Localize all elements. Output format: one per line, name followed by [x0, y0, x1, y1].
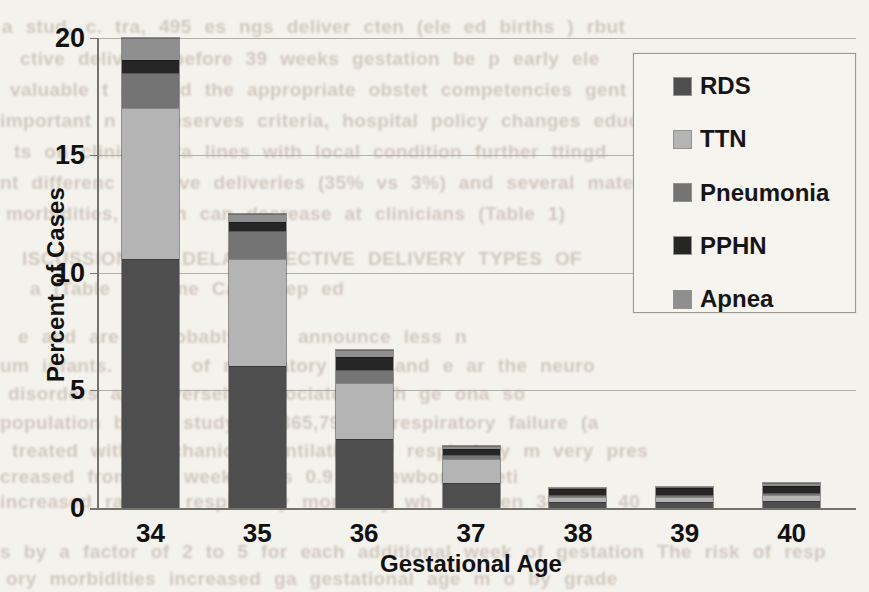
y-tick-label: 20: [39, 25, 85, 52]
y-tick-label: 0: [39, 495, 85, 522]
bar-segment-rds: [122, 259, 179, 508]
bar-segment-ttn: [122, 108, 179, 259]
legend-swatch-ttn: [674, 131, 691, 148]
legend-swatch-rds: [674, 78, 691, 95]
bar-segment-apnea: [229, 214, 286, 222]
legend-label: PPHN: [700, 232, 767, 260]
bar-segment-apnea: [763, 483, 820, 485]
x-tick-label-39: 39: [650, 518, 720, 549]
bar-segment-pphn: [549, 489, 606, 495]
y-tick-mark: [90, 390, 97, 391]
x-tick-label-40: 40: [757, 518, 827, 549]
legend-item-pneumonia: Pneumonia: [674, 179, 829, 207]
bar-37: [443, 446, 500, 508]
bar-36: [336, 350, 393, 508]
bar-segment-pneumonia: [229, 231, 286, 258]
bar-segment-pphn: [336, 357, 393, 370]
bar-segment-pneumonia: [443, 455, 500, 459]
bar-segment-pphn: [763, 486, 820, 493]
y-tick-mark: [90, 273, 97, 274]
bar-segment-pneumonia: [656, 495, 713, 497]
bar-segment-apnea: [336, 350, 393, 357]
bar-segment-pphn: [122, 60, 179, 73]
bar-39: [656, 487, 713, 508]
bar-segment-apnea: [549, 488, 606, 489]
bar-segment-ttn: [229, 259, 286, 366]
y-tick-mark: [90, 38, 97, 39]
bar-34: [122, 38, 179, 509]
bar-segment-apnea: [122, 38, 179, 60]
bar-segment-pphn: [229, 222, 286, 231]
bar-segment-rds: [336, 439, 393, 508]
x-tick-label-37: 37: [436, 518, 506, 549]
legend-label: TTN: [700, 125, 747, 153]
y-tick-mark: [90, 155, 97, 156]
bar-35: [229, 214, 286, 508]
gridline-5: [97, 390, 856, 391]
bar-segment-rds: [229, 366, 286, 508]
legend-item-ttn: TTN: [674, 125, 747, 153]
bar-segment-ttn: [443, 459, 500, 484]
y-axis-title: Percent of Cases: [42, 187, 70, 382]
bar-segment-ttn: [336, 383, 393, 438]
legend-label: Apnea: [700, 285, 773, 313]
bar-segment-pneumonia: [336, 370, 393, 383]
bar-segment-rds: [443, 483, 500, 508]
bar-segment-rds: [763, 501, 820, 508]
x-axis-title: Gestational Age: [321, 550, 621, 578]
legend-swatch-pneumonia: [674, 184, 691, 201]
legend-item-pphn: PPHN: [674, 232, 767, 260]
bar-segment-ttn: [656, 497, 713, 502]
x-tick-label-38: 38: [543, 518, 613, 549]
bar-segment-pneumonia: [122, 73, 179, 108]
legend-label: Pneumonia: [700, 179, 829, 207]
x-tick-label-35: 35: [222, 518, 292, 549]
legend-swatch-pphn: [674, 237, 691, 254]
y-axis-line: [97, 38, 99, 509]
stacked-bar-chart: 05101520 34353637383940 Percent of Cases…: [0, 0, 869, 592]
bar-segment-pneumonia: [549, 495, 606, 497]
bar-segment-pneumonia: [763, 493, 820, 495]
legend-item-rds: RDS: [674, 72, 751, 100]
chart-legend: RDSTTNPneumoniaPPHNApnea: [633, 53, 856, 313]
bar-segment-pphn: [443, 449, 500, 455]
legend-swatch-apnea: [674, 291, 691, 308]
bar-segment-apnea: [656, 487, 713, 488]
x-tick-label-36: 36: [329, 518, 399, 549]
legend-label: RDS: [700, 72, 751, 100]
bar-40: [763, 483, 820, 508]
x-tick-label-34: 34: [115, 518, 185, 549]
bar-segment-ttn: [549, 497, 606, 502]
bar-segment-pphn: [656, 488, 713, 495]
y-tick-label: 15: [39, 142, 85, 169]
gridline-20: [97, 38, 856, 39]
bar-segment-apnea: [443, 446, 500, 450]
legend-item-apnea: Apnea: [674, 285, 773, 313]
scanned-chart-page: a stud, c. tra, 495 es ngs deliver cten …: [0, 0, 869, 592]
bar-38: [549, 488, 606, 508]
x-axis-line: [90, 508, 856, 510]
bar-segment-ttn: [763, 495, 820, 501]
